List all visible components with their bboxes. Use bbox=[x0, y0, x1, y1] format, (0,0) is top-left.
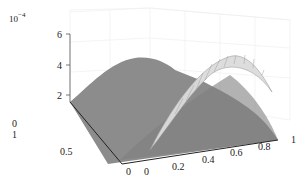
surface-plot: 10−4 6 4 2 0 1 0.5 0 0 0.2 0.4 0.6 0.8 1 bbox=[0, 0, 306, 184]
x-tick-0.6: 0.6 bbox=[230, 147, 243, 158]
x-tick-1: 1 bbox=[291, 134, 296, 145]
z-tick-0: 0 bbox=[12, 118, 17, 129]
y-tick-1: 1 bbox=[12, 129, 17, 140]
z-tick-2: 2 bbox=[57, 90, 62, 101]
y-tick-0.5: 0.5 bbox=[60, 146, 73, 157]
z-tick-6: 6 bbox=[57, 29, 62, 40]
z-tick-4: 4 bbox=[57, 60, 62, 71]
z-exponent-label: 10−4 bbox=[9, 11, 26, 24]
x-tick-0.4: 0.4 bbox=[202, 154, 215, 165]
x-tick-0: 0 bbox=[144, 166, 149, 177]
x-tick-0.2: 0.2 bbox=[172, 161, 185, 172]
y-tick-0: 0 bbox=[126, 166, 131, 177]
x-tick-0.8: 0.8 bbox=[258, 141, 271, 152]
z-axis bbox=[66, 34, 70, 102]
